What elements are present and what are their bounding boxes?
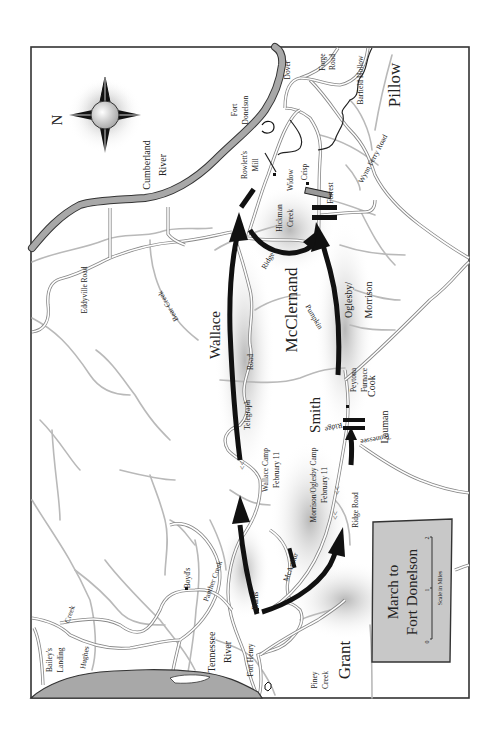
scale-tick-0: 0	[424, 641, 430, 644]
label-forge-road-2: Road	[328, 54, 337, 70]
label-widow-crisp-2: Crisp	[300, 164, 309, 181]
label-eddyville-road: Eddyville Road	[80, 266, 89, 313]
label-forrest: Forrest	[326, 181, 335, 203]
label-mcclernand: McClernand	[282, 267, 301, 352]
label-wallace-camp-1: Wallace Camp	[261, 448, 270, 492]
map-title-line2: Fort Donelson	[404, 548, 420, 635]
label-baileys-landing-2: Landing	[56, 647, 65, 672]
label-baileys-landing-1: Bailey's	[45, 648, 54, 672]
scale-tick-2: 2	[424, 537, 430, 540]
label-rowletts-mill-1: Rowlett's	[240, 151, 249, 179]
label-telegraph-road-1: Telegraph	[243, 400, 252, 430]
label-tennessee-river-1: Tennessee	[206, 631, 217, 673]
unit-bar-cook	[343, 418, 365, 422]
title-cartouche: March to Fort Donelson 0 1 2 Scale in Mi…	[372, 519, 452, 662]
label-tennessee-river-2: River	[222, 640, 233, 663]
label-fort-donelson-1: Fort	[230, 103, 239, 116]
camp-chevron-morrison-1: <<	[333, 485, 342, 495]
label-barfield-hollow: Barfield Hollow	[356, 55, 365, 105]
camp-chevron-wallace: <<	[238, 460, 247, 470]
label-oglesby-morrison-1: Oglesby/	[343, 282, 354, 318]
compass-rose	[67, 77, 143, 153]
label-ridge-road: Ridge Road	[351, 492, 360, 528]
map-title-line1: March to	[385, 565, 401, 620]
label-piney-creek-1: Piney	[310, 671, 319, 688]
march-route-smith-mid	[351, 438, 352, 465]
label-morrison-camp-1: Morrison/Oglesby Camp	[309, 447, 318, 522]
label-fort-henry: Fort Henry	[246, 643, 255, 676]
label-telegraph-road-2: Road	[246, 354, 255, 370]
label-piney-creek-2: Creek	[321, 671, 330, 689]
label-dover: Dover	[283, 60, 292, 79]
label-rowletts-mill-2: Mill	[251, 159, 260, 172]
building-widow-crisp	[306, 182, 309, 185]
building-peytona	[346, 405, 349, 408]
unit-bar-lauman	[343, 426, 365, 430]
label-wallace: Wallace	[207, 311, 223, 359]
label-cook: Cook	[366, 375, 377, 397]
label-hickman-creek-2: Creek	[286, 209, 295, 227]
map-canvas: N << << <<	[0, 0, 492, 741]
label-peytona-furnace-1: Peytona	[349, 367, 358, 392]
label-wallace-camp-2: February 11	[272, 452, 281, 488]
label-pillow: Pillow	[385, 62, 404, 107]
label-oglesby-morrison-2: Morrison	[363, 281, 374, 318]
building-rowletts-mill	[273, 173, 276, 176]
unit-bar-mcclernand-2	[312, 215, 337, 220]
label-cumberland-river-2: River	[157, 153, 168, 176]
label-boyds: Boyd's	[183, 568, 192, 589]
label-grant: Grant	[335, 640, 354, 679]
label-morrison-camp-2: February 11	[320, 467, 329, 503]
label-cumberland-river-1: Cumberland	[141, 140, 152, 189]
compass-north-label: N	[49, 114, 65, 125]
label-hickman-creek-1: Hickman	[275, 204, 284, 232]
unit-bar-mcclernand-1	[312, 205, 337, 210]
label-burns: Burns'	[251, 590, 260, 610]
scale-tick-1: 1	[424, 589, 430, 592]
label-fort-donelson-2: Donelson	[241, 95, 250, 124]
scale-caption: Scale in Miles	[437, 570, 443, 605]
label-smith: Smith	[307, 397, 323, 433]
camp-chevron-morrison-2: <<	[331, 510, 340, 520]
label-widow-crisp-1: Widow	[286, 169, 295, 191]
label-forge-road-1: Forge	[318, 53, 327, 71]
